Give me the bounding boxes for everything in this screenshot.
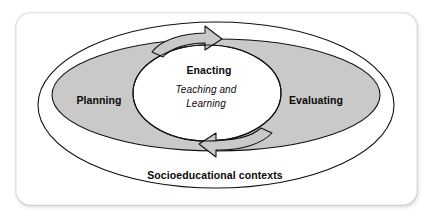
label-enacting: Enacting xyxy=(186,64,231,76)
teaching-line-2: Learning xyxy=(176,97,237,111)
teaching-line-1: Teaching and xyxy=(176,83,237,97)
label-teaching-and-learning: Teaching and Learning xyxy=(176,83,237,111)
diagram-canvas: Planning Evaluating Enacting Teaching an… xyxy=(0,0,432,219)
label-evaluating: Evaluating xyxy=(289,94,343,106)
label-socioeducational-contexts: Socioeducational contexts xyxy=(147,169,283,181)
label-planning: Planning xyxy=(76,94,121,106)
